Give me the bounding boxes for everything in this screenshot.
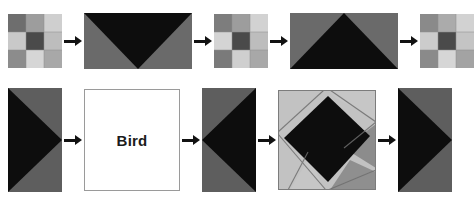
right-arrow-icon	[180, 130, 202, 150]
top-row	[8, 13, 474, 69]
nine-patch-grid-c-graphic	[420, 14, 474, 68]
arrow-head	[281, 36, 288, 46]
arrow-head	[75, 135, 82, 145]
nine-patch-grid-b	[214, 14, 268, 68]
right-arrow-icon	[256, 130, 278, 150]
nine-patch-grid-b-graphic	[214, 14, 268, 68]
right-arrowhead-panel-a	[8, 88, 62, 192]
bottom-row: Bird	[8, 88, 452, 192]
up-triangle-graphic	[290, 13, 398, 69]
pinwheel-diamond-graphic	[278, 90, 376, 190]
arrow-head	[205, 36, 212, 46]
right-arrowhead-graphic-a	[8, 88, 62, 192]
up-triangle-panel	[290, 13, 398, 69]
arrow-head	[269, 135, 276, 145]
arrow-head	[193, 135, 200, 145]
nine-patch-grid-a-graphic	[8, 14, 62, 68]
arrow-head	[389, 135, 396, 145]
right-arrowhead-panel-b	[398, 88, 452, 192]
right-arrow-icon	[192, 31, 214, 51]
down-triangle-graphic	[84, 13, 192, 69]
right-arrow-icon	[62, 130, 84, 150]
arrow-head	[411, 36, 418, 46]
arrow-head	[75, 36, 82, 46]
right-arrow-icon	[376, 130, 398, 150]
left-arrowhead-panel	[202, 88, 256, 192]
left-arrowhead-graphic	[202, 88, 256, 192]
right-arrow-icon	[398, 31, 420, 51]
down-triangle-panel	[84, 13, 192, 69]
bird-label-text: Bird	[117, 133, 148, 148]
bird-label-panel: Bird	[84, 89, 180, 191]
nine-patch-grid-a	[8, 14, 62, 68]
nine-patch-grid-c	[420, 14, 474, 68]
right-arrowhead-graphic-b	[398, 88, 452, 192]
right-arrow-icon	[62, 31, 84, 51]
right-arrow-icon	[268, 31, 290, 51]
pinwheel-diamond-panel	[278, 90, 376, 190]
